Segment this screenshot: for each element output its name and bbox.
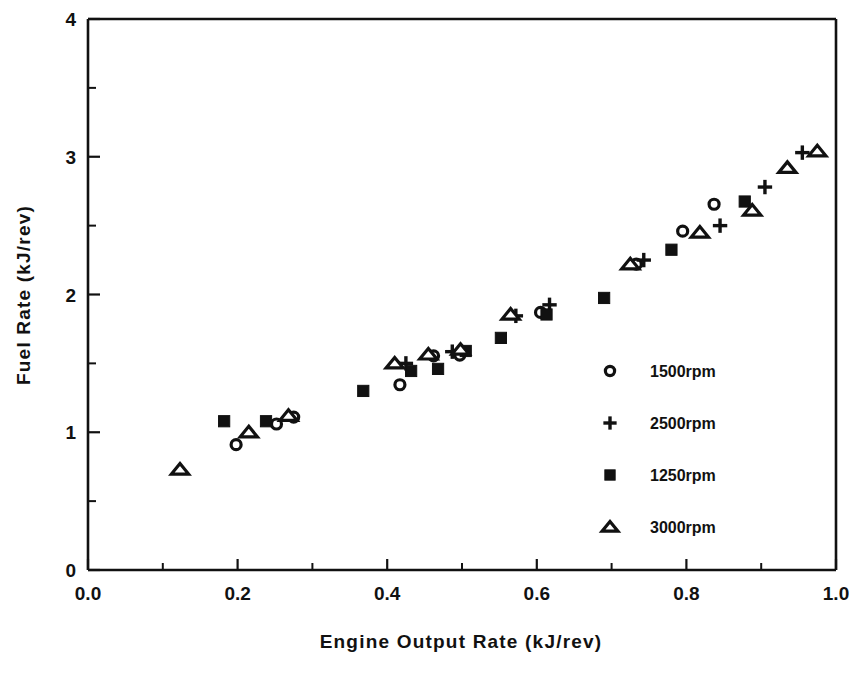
x-tick-label: 0.2 xyxy=(224,583,250,604)
data-point-1250rpm xyxy=(432,363,443,374)
y-axis-title: Fuel Rate (kJ/rev) xyxy=(13,205,34,385)
data-point-1500rpm xyxy=(678,226,688,236)
x-tick-label: 0.4 xyxy=(374,583,401,604)
scatter-chart: 0.00.20.40.60.81.0 01234 1500rpm2500rpm1… xyxy=(0,0,861,675)
data-point-1500rpm xyxy=(395,380,405,390)
plot-canvas: 0.00.20.40.60.81.0 01234 1500rpm2500rpm1… xyxy=(0,0,861,675)
legend-marker-1250rpm xyxy=(605,470,615,480)
data-point-1250rpm xyxy=(219,416,230,427)
legend-label-1500rpm: 1500rpm xyxy=(650,363,716,380)
x-tick-label: 0.6 xyxy=(524,583,550,604)
data-point-1250rpm xyxy=(406,365,417,376)
data-point-1250rpm xyxy=(541,309,552,320)
data-point-1250rpm xyxy=(260,416,271,427)
y-tick-label: 1 xyxy=(65,422,76,443)
chart-background xyxy=(0,0,861,675)
y-tick-label: 3 xyxy=(65,147,76,168)
x-axis-title: Engine Output Rate (kJ/rev) xyxy=(320,631,603,652)
y-tick-label: 4 xyxy=(65,9,76,30)
data-point-1500rpm xyxy=(709,199,719,209)
y-tick-label: 2 xyxy=(65,285,76,306)
data-point-1250rpm xyxy=(495,332,506,343)
x-tick-label: 0.0 xyxy=(75,583,101,604)
data-point-1250rpm xyxy=(739,196,750,207)
y-tick-label: 0 xyxy=(65,560,76,581)
legend-marker-1500rpm xyxy=(605,366,614,375)
legend-label-3000rpm: 3000rpm xyxy=(650,519,716,536)
data-point-1250rpm xyxy=(666,244,677,255)
x-tick-label: 0.8 xyxy=(673,583,699,604)
data-point-1250rpm xyxy=(599,292,610,303)
legend-label-2500rpm: 2500rpm xyxy=(650,415,716,432)
data-point-1250rpm xyxy=(358,385,369,396)
legend-label-1250rpm: 1250rpm xyxy=(650,467,716,484)
data-point-1500rpm xyxy=(231,440,241,450)
x-tick-label: 1.0 xyxy=(823,583,849,604)
